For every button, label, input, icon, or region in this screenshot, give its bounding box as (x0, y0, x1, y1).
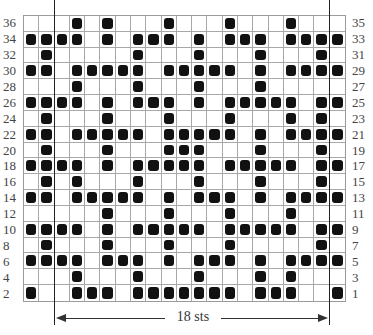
stitch-cell-filled (116, 190, 131, 206)
stitch-cell-filled (253, 79, 268, 95)
stitch-cell-filled (330, 127, 345, 143)
stitch-cell-empty (177, 253, 192, 269)
stitch-cell-filled (299, 253, 314, 269)
stitch-cell-filled (330, 95, 345, 111)
stitch-cell-filled (284, 16, 299, 32)
stitch-cell-filled (223, 32, 238, 48)
row-label-right: 1 (352, 286, 372, 302)
row-label-right: 5 (352, 254, 372, 270)
repeat-boundary-left (54, 0, 55, 325)
stitch-cell-filled (269, 285, 284, 301)
stitch-cell-empty (55, 269, 70, 285)
stitch-cell-filled (24, 127, 39, 143)
stitch-cell-empty (177, 174, 192, 190)
stitch-cell-filled (299, 32, 314, 48)
stitch-cell-empty (177, 111, 192, 127)
stitch-cell-empty (299, 79, 314, 95)
row-label-right: 23 (352, 111, 372, 127)
row-label-left: 16 (3, 174, 21, 190)
stitch-cell-empty (85, 206, 100, 222)
stitch-cell-empty (146, 206, 161, 222)
stitch-cell-filled (284, 253, 299, 269)
stitch-cell-empty (238, 16, 253, 32)
stitch-cell-empty (330, 79, 345, 95)
row-label-left: 28 (3, 79, 21, 95)
stitch-cell-filled (253, 222, 268, 238)
stitch-cell-empty (238, 143, 253, 159)
stitch-cell-empty (70, 238, 85, 254)
stitch-cell-empty (146, 190, 161, 206)
stitch-cell-filled (284, 32, 299, 48)
stitch-cell-empty (85, 48, 100, 64)
stitch-cell-empty (238, 238, 253, 254)
stitch-cell-filled (39, 32, 54, 48)
stitch-cell-empty (207, 269, 222, 285)
stitch-cell-filled (253, 269, 268, 285)
stitch-cell-filled (70, 253, 85, 269)
arrow-right-icon (318, 314, 328, 322)
stitch-cell-empty (177, 79, 192, 95)
stitch-cell-empty (100, 48, 115, 64)
row-label-left: 26 (3, 95, 21, 111)
stitch-cell-empty (177, 269, 192, 285)
stitch-cell-empty (330, 16, 345, 32)
stitch-cell-empty (269, 190, 284, 206)
stitch-cell-empty (177, 238, 192, 254)
stitch-cell-filled (131, 253, 146, 269)
stitch-cell-filled (70, 32, 85, 48)
stitch-cell-empty (192, 238, 207, 254)
stitch-cell-filled (253, 48, 268, 64)
stitch-cell-filled (330, 158, 345, 174)
stitch-cell-empty (24, 269, 39, 285)
stitch-cell-filled (192, 174, 207, 190)
stitch-cell-empty (131, 16, 146, 32)
stitch-cell-filled (24, 32, 39, 48)
stitch-cell-filled (85, 190, 100, 206)
stitch-cell-empty (207, 48, 222, 64)
stitch-cell-empty (39, 79, 54, 95)
stitch-cell-filled (55, 158, 70, 174)
stitch-cell-empty (24, 206, 39, 222)
knitting-chart-grid (23, 15, 346, 302)
row-label-left: 10 (3, 222, 21, 238)
stitch-cell-empty (24, 143, 39, 159)
stitch-cell-empty (146, 111, 161, 127)
stitch-cell-filled (70, 269, 85, 285)
stitch-cell-empty (177, 206, 192, 222)
stitch-cell-filled (177, 222, 192, 238)
stitch-cell-empty (116, 48, 131, 64)
stitch-cell-filled (39, 127, 54, 143)
stitch-cell-empty (269, 16, 284, 32)
stitch-cell-empty (253, 206, 268, 222)
stitch-cell-empty (100, 174, 115, 190)
stitch-cell-empty (207, 16, 222, 32)
stitch-cell-filled (253, 143, 268, 159)
stitch-cell-filled (100, 127, 115, 143)
stitch-cell-filled (39, 111, 54, 127)
stitch-cell-empty (299, 158, 314, 174)
stitch-cell-filled (177, 63, 192, 79)
stitch-cell-empty (238, 285, 253, 301)
stitch-cell-filled (70, 63, 85, 79)
stitch-cell-empty (207, 32, 222, 48)
stitch-cell-empty (299, 16, 314, 32)
stitch-cell-filled (70, 222, 85, 238)
stitch-cell-filled (70, 190, 85, 206)
stitch-cell-filled (314, 111, 329, 127)
stitch-cell-filled (223, 253, 238, 269)
stitch-cell-filled (70, 79, 85, 95)
stitch-cell-empty (314, 285, 329, 301)
stitch-cell-filled (314, 127, 329, 143)
stitch-cell-filled (162, 222, 177, 238)
stitch-cell-empty (146, 48, 161, 64)
stitch-cell-empty (330, 238, 345, 254)
stitch-cell-empty (55, 174, 70, 190)
stitch-cell-filled (55, 32, 70, 48)
stitch-cell-filled (55, 222, 70, 238)
stitch-cell-empty (116, 222, 131, 238)
stitch-cell-filled (192, 79, 207, 95)
stitch-cell-empty (207, 174, 222, 190)
row-label-right: 9 (352, 222, 372, 238)
stitch-cell-filled (70, 16, 85, 32)
stitch-cell-filled (100, 95, 115, 111)
